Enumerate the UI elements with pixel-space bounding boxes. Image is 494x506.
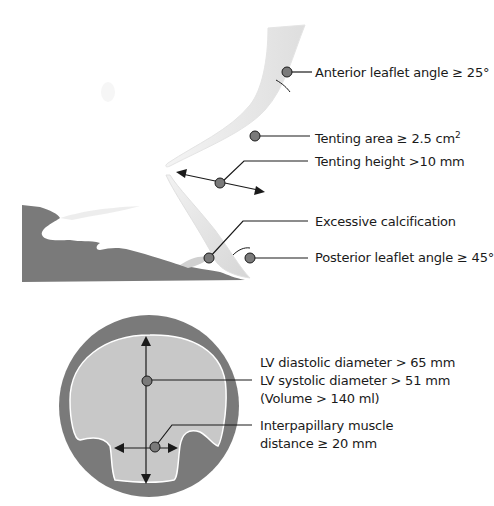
interpapillary-label-line2: distance ≥ 20 mm [260, 435, 393, 453]
blur-spot [101, 82, 115, 102]
calcification-label: Excessive calcification [315, 213, 456, 230]
interpapillary-label-line1: Interpapillary muscle [260, 417, 393, 435]
tenting-height-leader [221, 161, 308, 183]
interpapillary-labels: Interpapillary muscle distance ≥ 20 mm [260, 417, 393, 453]
posterior-leaflet-angle-label: Posterior leaflet angle ≥ 45° [315, 249, 494, 266]
calcification-marker [204, 253, 214, 263]
anterior-leaflet-angle-label: Anterior leaflet angle ≥ 25° [315, 64, 489, 81]
tenting-height-marker [215, 178, 225, 188]
tenting-area-label: Tenting area ≥ 2.5 cm2 [315, 127, 460, 147]
lv-volume-label: (Volume > 140 ml) [260, 390, 455, 408]
tenting-area-superscript: 2 [455, 130, 461, 140]
lv-systolic-label: LV systolic diameter > 51 mm [260, 372, 455, 390]
interpapillary-marker [150, 442, 160, 452]
tenting-area-marker [250, 131, 260, 141]
posterior-marker [245, 253, 255, 263]
lv-diastolic-label: LV diastolic diameter > 65 mm [260, 354, 455, 372]
anterior-marker [282, 67, 292, 77]
tenting-height-label: Tenting height >10 mm [315, 153, 465, 170]
lv-diameter-labels: LV diastolic diameter > 65 mm LV systoli… [260, 354, 455, 408]
tenting-area-text: Tenting area ≥ 2.5 cm [315, 131, 455, 146]
anterior-leaflet [166, 25, 305, 167]
lv-diameter-marker [142, 376, 152, 386]
